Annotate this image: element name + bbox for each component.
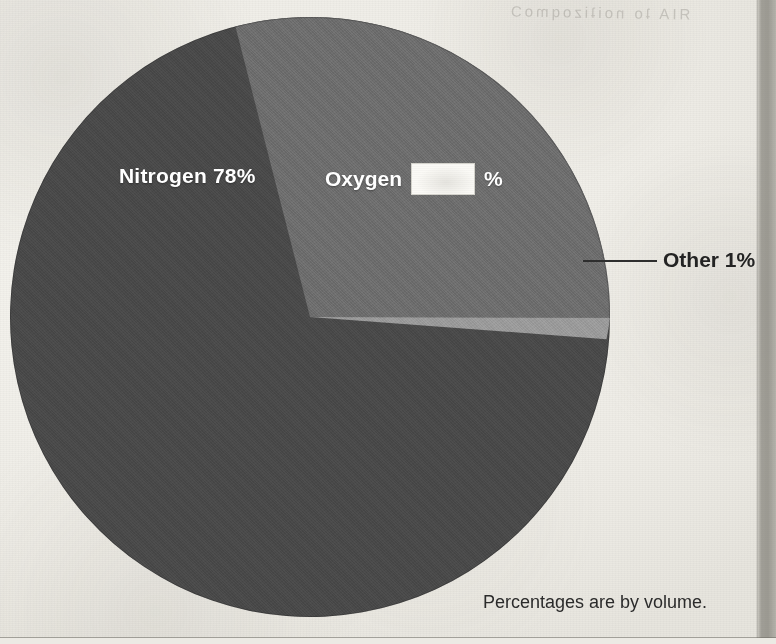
- pie-label-oxygen: Oxygen %: [325, 163, 503, 195]
- pie-label-oxygen-percent-sign: %: [484, 167, 503, 191]
- oxygen-value-blank-box[interactable]: [411, 163, 475, 195]
- pie-chart: [10, 17, 610, 617]
- pie-label-oxygen-name: Oxygen: [325, 167, 402, 191]
- page-bottom-margin: [0, 638, 776, 644]
- chart-footnote: Percentages are by volume.: [483, 592, 707, 613]
- pie-chart-svg: [10, 17, 610, 617]
- page-gutter-shadow: [758, 0, 776, 644]
- pie-label-nitrogen: Nitrogen 78%: [119, 164, 256, 188]
- scanned-page: ЯIA ʇo noiʇizoqmoƆ Nitrogen 78% Oxygen %…: [0, 0, 776, 644]
- other-callout-leader-line: [583, 260, 657, 262]
- pie-label-other: Other 1%: [663, 248, 755, 272]
